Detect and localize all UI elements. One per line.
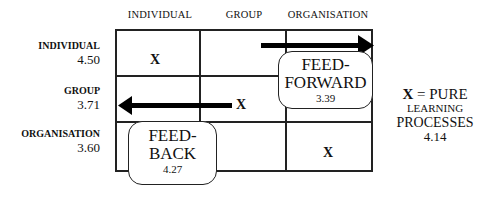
feed-forward-line1: FEED- [279, 56, 372, 74]
row-value-individual: 4.50 [77, 53, 100, 67]
feed-back-arrow-icon [118, 96, 236, 118]
legend: X = PURE LEARNING PROCESSES 4.14 [390, 86, 480, 144]
grid-left-border [115, 29, 117, 171]
feed-forward-box: FEED- FORWARD 3.39 [278, 51, 373, 109]
legend-line1: X = PURE [390, 86, 480, 102]
feed-forward-value: 3.39 [279, 92, 372, 105]
feed-back-line1: FEED- [129, 127, 216, 145]
feed-forward-line2: FORWARD [279, 74, 372, 92]
cell-mark-group-organisation: X [236, 97, 246, 113]
feed-back-box: FEED- BACK 4.27 [128, 121, 217, 185]
legend-value: 4.14 [390, 130, 480, 144]
row-header-individual: INDIVIDUAL [38, 40, 100, 52]
legend-line3: PROCESSES [390, 115, 480, 130]
feed-back-line2: BACK [129, 145, 216, 163]
column-header-group: GROUP [203, 9, 285, 20]
cell-mark-individual-individual: X [150, 52, 160, 68]
legend-line1-text: = PURE [413, 86, 467, 102]
column-header-organisation: ORGANISATION [278, 9, 378, 20]
row-value-organisation: 3.60 [77, 141, 100, 155]
row-value-group: 3.71 [77, 98, 100, 112]
legend-symbol: X [402, 86, 413, 102]
column-header-individual: INDIVIDUAL [118, 9, 202, 20]
cell-mark-organisation-organisation: X [323, 145, 333, 161]
row-header-group: GROUP [64, 85, 100, 97]
row-header-organisation: ORGANISATION [21, 128, 100, 140]
grid-top-border [115, 29, 373, 31]
legend-line2: LEARNING [390, 102, 480, 115]
feed-back-value: 4.27 [129, 163, 216, 176]
